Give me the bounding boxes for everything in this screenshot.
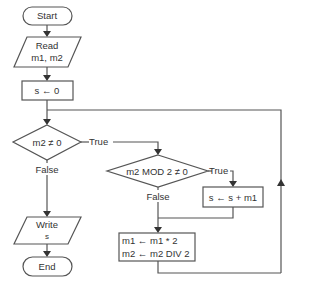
arrow-head-icon — [229, 181, 237, 187]
arrow-head-icon — [154, 149, 162, 155]
start-label: Start — [37, 10, 57, 21]
add-label: s ← s + m1 — [209, 192, 257, 203]
connector-add-merge — [158, 207, 233, 218]
write-label-line2: s — [45, 231, 49, 242]
connector-d1-true-b — [113, 142, 158, 150]
connector-update-loop — [158, 261, 281, 273]
arrow-head-icon — [43, 75, 51, 81]
decision1-true-label: True — [89, 136, 108, 147]
read-label-line1: Read — [36, 40, 59, 51]
update-label-line2: m2 ← m2 DIV 2 — [122, 248, 190, 259]
decision1-false-label: False — [35, 164, 58, 175]
arrow-head-icon — [43, 211, 51, 217]
arrow-head-icon — [43, 31, 51, 37]
arrow-head-icon — [43, 251, 51, 257]
loop-up-arrow-icon — [277, 179, 285, 186]
decision2-false-label: False — [146, 191, 169, 202]
arrow-head-icon — [43, 119, 51, 125]
read-label-line2: m1, m2 — [31, 52, 63, 63]
end-label: End — [39, 261, 56, 272]
decision2-label: m2 MOD 2 ≠ 0 — [126, 166, 188, 177]
decision1-label: m2 ≠ 0 — [33, 137, 62, 148]
update-label-line1: m1 ← m1 * 2 — [122, 235, 177, 246]
arrow-head-icon — [154, 227, 162, 233]
connector-d2-true-b — [230, 171, 233, 182]
init-label: s ← 0 — [35, 85, 60, 96]
write-label-line1: Write — [36, 219, 58, 230]
decision2-true-label: True — [209, 165, 228, 176]
